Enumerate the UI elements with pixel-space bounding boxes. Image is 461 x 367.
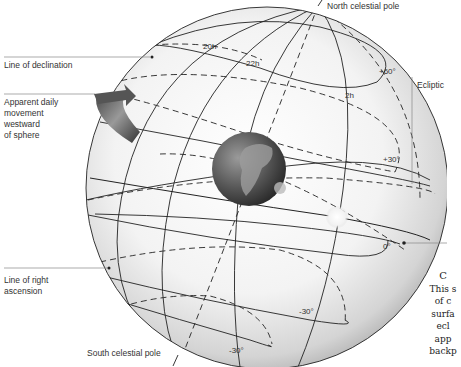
declination-tick-plus30: +30° [383,155,400,164]
apparent-movement-label: Apparent daily movement westward of sphe… [4,97,58,141]
hour-tick-20h: 20h [203,42,216,51]
polar-axis-south [173,355,178,366]
sun [326,206,348,228]
earth-globe [212,132,286,206]
declination-tick-plus60: +60° [379,67,396,76]
declination-tick-minus30-a: -30° [299,307,314,316]
line-of-right-ascension-label: Line of right ascension [4,275,48,297]
hour-tick-2h: 2h [345,91,354,100]
line-of-declination-label: Line of declination [4,60,73,71]
north-celestial-pole-label: North celestial pole [327,1,399,12]
caption-fragment: C This s of c surfa ecl app backp [413,270,461,358]
polar-axis-north [318,0,322,6]
declination-tick-minus30-b: -30° [229,346,244,355]
declination-tick-zero: 0° [383,242,391,251]
south-celestial-pole-label: South celestial pole [87,348,161,359]
hour-tick-22h: 22h [246,59,259,68]
ecliptic-label: Ecliptic [417,80,444,91]
